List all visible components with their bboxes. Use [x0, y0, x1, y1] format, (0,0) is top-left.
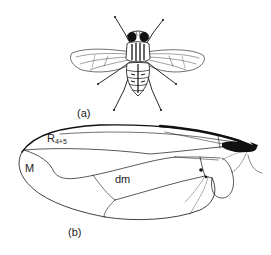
panel-b-label: (b): [68, 227, 81, 238]
vein-label-r45-subscript: 4+5: [55, 138, 67, 145]
panel-a-label: (a): [77, 108, 90, 119]
fly-illustration: [0, 0, 271, 255]
vein-label-r45: R4+5: [47, 133, 67, 145]
vein-label-r45-main: R: [47, 132, 55, 144]
vein-label-m: M: [25, 163, 34, 174]
cell-label-dm: dm: [115, 174, 130, 185]
figure: (a) R4+5 M dm (b): [0, 0, 271, 255]
